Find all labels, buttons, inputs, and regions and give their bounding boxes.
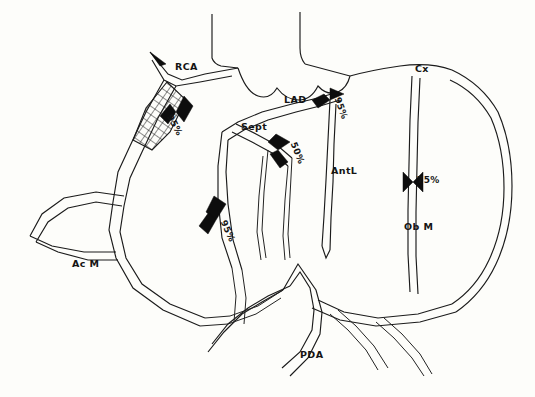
vessel-label-rca: RCA (175, 62, 198, 72)
obtuse-marginal-vessel (403, 76, 423, 294)
anterolateral-branch-vessel (322, 100, 336, 258)
vessel-tree-svg (0, 0, 535, 397)
sept-50-lesion (268, 134, 290, 168)
rca-vessel (109, 52, 238, 326)
septal-branch-vessel (232, 124, 292, 260)
vessel-label-pda: PDA (300, 350, 323, 360)
rca-origin-arrow (150, 52, 166, 66)
stenosis-label-obtuse-marginal: 75% (417, 176, 440, 185)
vessel-label-acm: Ac M (72, 259, 99, 269)
vessel-label-antl: AntL (331, 166, 357, 176)
coronary-diagram-figure: RCA Cx LAD Sept AntL Ob M Ac M PDA 95% 9… (0, 0, 535, 397)
vessel-label-lad: LAD (284, 95, 307, 105)
rca-diffuse-disease-segment (133, 82, 186, 150)
aorta-outline (212, 12, 452, 100)
vessel-label-obm: Ob M (404, 222, 433, 232)
vessel-label-cx: Cx (415, 64, 429, 74)
vessel-label-sept: Sept (241, 122, 267, 132)
